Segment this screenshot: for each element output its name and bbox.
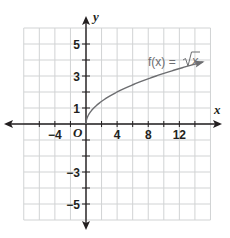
function-label-radicand: x — [191, 54, 199, 68]
x-tick-label: −4 — [48, 128, 62, 142]
x-tick-label: 8 — [145, 128, 152, 142]
x-tick-label: 4 — [114, 128, 121, 142]
origin-label: O — [73, 125, 83, 140]
y-tick-label: −5 — [66, 198, 80, 212]
y-tick-label: 5 — [73, 38, 80, 52]
y-axis-label: y — [91, 9, 99, 24]
y-tick-label: 3 — [73, 70, 80, 84]
y-tick-label: 1 — [73, 102, 80, 116]
y-tick-label: −3 — [66, 166, 80, 180]
axes — [4, 16, 222, 230]
function-label: f(x) = x — [148, 52, 200, 69]
sqrt-curve — [86, 62, 203, 124]
x-tick-label: 12 — [173, 128, 187, 142]
function-label-prefix: f(x) = — [148, 55, 176, 69]
function-graph: −44812 531−3−5 x y O f(x) = x — [0, 0, 230, 238]
x-axis-label: x — [213, 102, 221, 117]
